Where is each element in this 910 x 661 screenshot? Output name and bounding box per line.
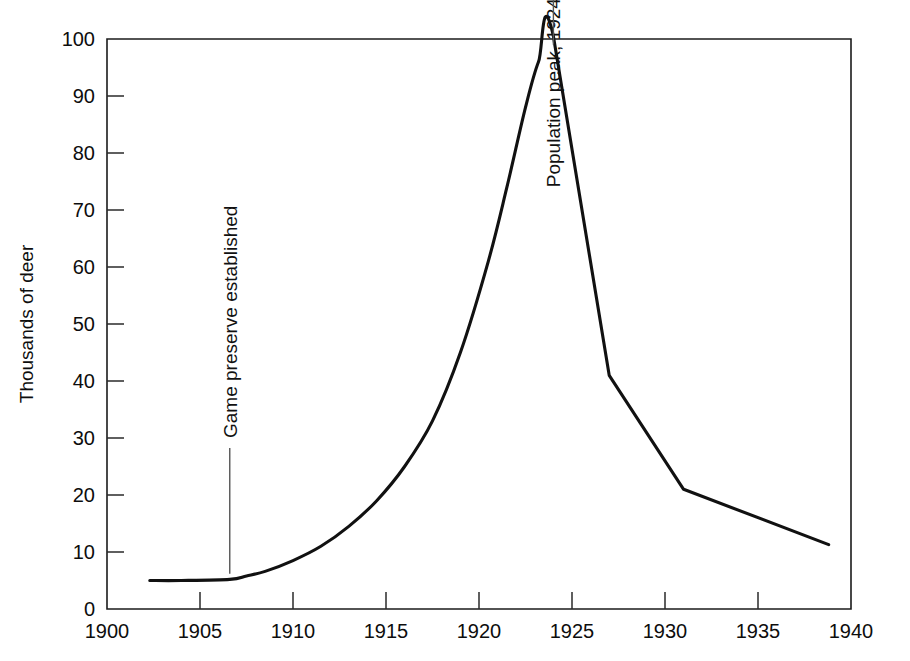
x-tick-label: 1920 bbox=[457, 620, 502, 642]
y-tick-label: 30 bbox=[73, 427, 95, 449]
x-tick-label: 1910 bbox=[271, 620, 316, 642]
y-tick-label: 100 bbox=[62, 28, 95, 50]
x-tick-label: 1935 bbox=[736, 620, 781, 642]
y-tick-label: 0 bbox=[84, 598, 95, 620]
y-tick-label: 70 bbox=[73, 199, 95, 221]
deer-population-line-chart: 0102030405060708090100 19001905191019151… bbox=[0, 0, 910, 661]
y-tick-label: 80 bbox=[73, 142, 95, 164]
chart-background bbox=[0, 0, 910, 661]
y-axis-title: Thousands of deer bbox=[16, 244, 37, 403]
y-tick-label: 10 bbox=[73, 541, 95, 563]
x-tick-label: 1930 bbox=[643, 620, 688, 642]
y-tick-label: 50 bbox=[73, 313, 95, 335]
y-tick-label: 60 bbox=[73, 256, 95, 278]
chart-figure: 0102030405060708090100 19001905191019151… bbox=[0, 0, 910, 661]
annotation-label-game-preserve: Game preserve established bbox=[220, 206, 241, 438]
x-tick-label: 1940 bbox=[829, 620, 874, 642]
y-tick-label: 20 bbox=[73, 484, 95, 506]
x-tick-label: 1925 bbox=[550, 620, 595, 642]
y-tick-label: 90 bbox=[73, 85, 95, 107]
x-tick-label: 1915 bbox=[364, 620, 409, 642]
x-tick-label: 1905 bbox=[178, 620, 223, 642]
x-tick-label: 1900 bbox=[85, 620, 130, 642]
y-tick-label: 40 bbox=[73, 370, 95, 392]
